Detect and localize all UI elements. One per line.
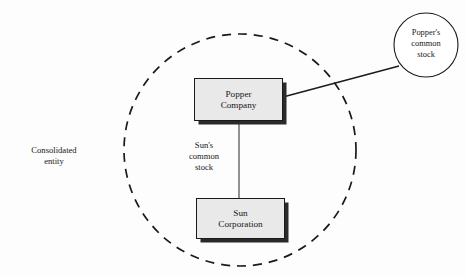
poppers-common-stock-label[interactable]: Popper's common stock <box>396 28 456 61</box>
entity-box-popper-company[interactable]: Popper Company <box>194 78 283 121</box>
entity-name-line: Company <box>221 100 257 111</box>
popper-common-stock-connector-line <box>283 66 399 97</box>
connector-label-line: common <box>174 151 234 162</box>
consolidated-entity-label-line: Consolidated <box>6 145 102 156</box>
external-node-label-line: stock <box>396 50 456 61</box>
connector-label-line: Sun's <box>174 140 234 151</box>
entity-name-line: Popper <box>225 89 251 100</box>
consolidated-entity-label-line: entity <box>6 156 102 167</box>
external-node-label-line: common <box>396 39 456 50</box>
external-node-label-line: Popper's <box>396 28 456 39</box>
entity-name-line: Sun <box>233 208 247 219</box>
consolidated-entity-label: Consolidated entity <box>6 145 102 167</box>
sun-common-stock-connector-label: Sun's common stock <box>174 140 234 173</box>
entity-box-sun-corporation[interactable]: Sun Corporation <box>196 198 285 239</box>
entity-name-line: Corporation <box>218 219 262 230</box>
connector-label-line: stock <box>174 162 234 173</box>
consolidation-diagram: Popper Company Sun Corporation Consolida… <box>0 0 466 277</box>
